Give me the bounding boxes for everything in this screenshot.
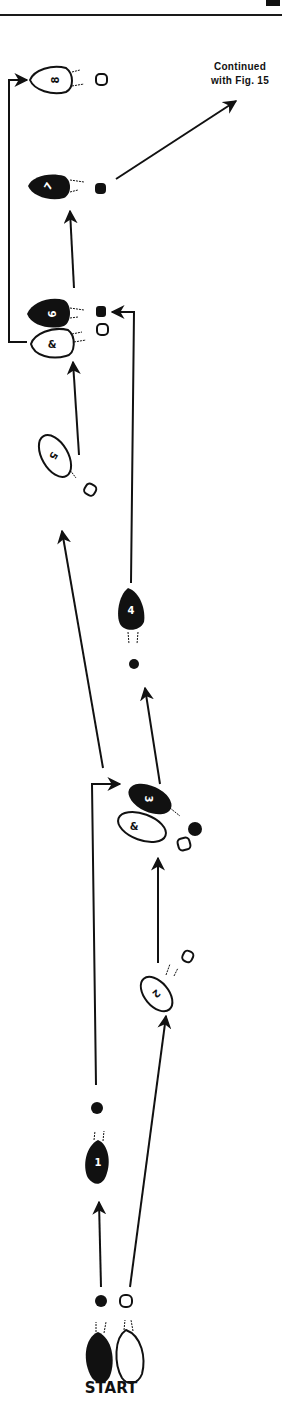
footstep-diagram: 1 2 3 & 4 5 6 — [0, 0, 282, 1412]
step-6a-label: & — [48, 339, 57, 350]
arrow-1-to-3 — [92, 784, 120, 1085]
step-3a-label: & — [130, 821, 139, 832]
ball-step-1 — [91, 1102, 103, 1114]
step-4-label: 4 — [128, 605, 135, 616]
ball-step-3 — [188, 822, 202, 836]
ball-step-3a — [177, 837, 192, 852]
arrow-6a-to-8 — [9, 80, 27, 342]
arrow-to-5 — [62, 531, 103, 768]
arrow-7-to-continued — [116, 101, 236, 179]
ball-step-7 — [95, 183, 106, 194]
arrow-6-to-7 — [70, 211, 74, 288]
step-1-label: 1 — [95, 1157, 102, 1168]
arrow-5-to-6a — [73, 362, 79, 455]
footprint-step-6a: & — [31, 324, 108, 358]
ball-step-6 — [96, 306, 106, 317]
footprint-step-1: 1 — [85, 1102, 109, 1184]
arrow-3-to-4 — [145, 688, 160, 784]
ball-start-left — [95, 1295, 107, 1307]
footprint-start-right — [116, 1295, 143, 1383]
ball-step-2 — [181, 949, 195, 963]
step-8-label: 8 — [50, 76, 61, 83]
footprint-step-7: 7 — [28, 174, 106, 199]
footprint-step-4: 4 — [118, 588, 144, 669]
start-label: START — [78, 1379, 144, 1397]
footprint-step-2: 2 — [135, 971, 179, 1017]
footprint-start-left — [86, 1295, 113, 1383]
step-3-label: 3 — [143, 796, 154, 803]
ball-step-5 — [83, 482, 98, 497]
arrow-4-to-6 — [112, 312, 134, 583]
arrow-start-to-1 — [99, 1202, 101, 1287]
step-6-label: 6 — [47, 310, 58, 317]
ball-step-6a — [97, 324, 108, 335]
footprint-step-6: 6 — [27, 299, 106, 328]
ball-step-8 — [96, 74, 107, 85]
footprint-step-8: 8 — [30, 67, 107, 94]
ball-step-4 — [129, 659, 139, 669]
ball-start-right — [120, 1295, 132, 1307]
arrow-start-to-2 — [130, 1016, 166, 1287]
footprint-step-5: 5 — [32, 430, 97, 498]
